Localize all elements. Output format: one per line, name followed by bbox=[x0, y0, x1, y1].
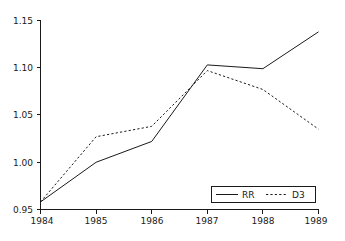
x-tick-label: 1984 bbox=[31, 216, 54, 226]
chart-canvas: 1.15 1.10 1.05 1.00 0.95 1984 1985 1986 … bbox=[0, 0, 345, 241]
y-tick-label: 1.10 bbox=[13, 63, 33, 73]
x-tick-label: 1989 bbox=[305, 216, 328, 226]
y-tick-label: 1.00 bbox=[13, 158, 33, 168]
x-tick-label: 1988 bbox=[252, 216, 275, 226]
line-chart: 1.15 1.10 1.05 1.00 0.95 1984 1985 1986 … bbox=[0, 0, 345, 241]
legend-label-rr: RR bbox=[242, 190, 255, 200]
chart-legend[interactable]: RR D3 bbox=[212, 187, 316, 203]
y-tick-label: 1.05 bbox=[13, 110, 33, 120]
y-tick-label: 1.15 bbox=[13, 16, 33, 26]
chart-background bbox=[0, 0, 345, 241]
x-tick-label: 1986 bbox=[141, 216, 164, 226]
legend-label-d3: D3 bbox=[292, 190, 305, 200]
y-tick-label: 0.95 bbox=[13, 205, 33, 215]
x-tick-label: 1987 bbox=[196, 216, 219, 226]
x-tick-label: 1985 bbox=[85, 216, 108, 226]
